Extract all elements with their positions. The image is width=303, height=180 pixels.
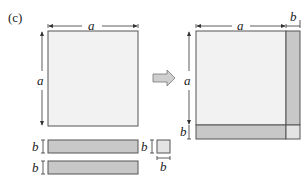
label-b-strip-2: b: [32, 160, 39, 175]
label-b-right-top: b: [290, 9, 297, 24]
left-figure: a a b b b b: [32, 18, 170, 175]
right-figure: a b a b: [180, 9, 300, 139]
composite-strip-right: [286, 31, 300, 125]
composite-square-a: [196, 31, 286, 125]
label-a-top: a: [88, 18, 95, 33]
square-a: [48, 31, 138, 126]
composite-square-b: [286, 125, 300, 139]
strip-ab-1: [48, 140, 138, 153]
label-b-small-width: b: [160, 159, 167, 174]
label-b-strip-1: b: [32, 139, 39, 154]
label-a-left: a: [37, 73, 44, 88]
panel-label: (c): [8, 10, 22, 25]
label-a-right-top: a: [237, 18, 244, 33]
strip-ab-2: [48, 161, 138, 174]
label-b-small-height: b: [141, 139, 148, 154]
label-a-right-left: a: [184, 73, 191, 88]
composite-strip-bottom: [196, 125, 286, 139]
square-b: [157, 140, 170, 153]
transform-arrow-icon: [153, 70, 175, 86]
label-b-right-left: b: [180, 124, 187, 139]
diagram-canvas: (c) a a b b b b: [0, 0, 303, 180]
